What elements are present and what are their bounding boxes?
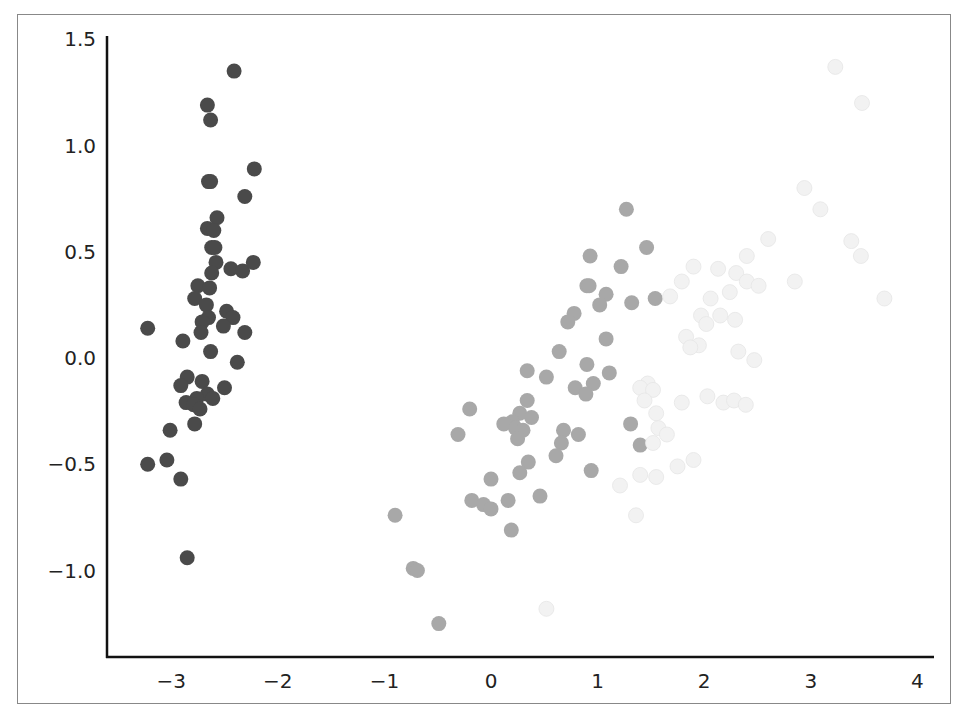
data-point	[637, 393, 652, 408]
x-axis-ticks: −3−2−101234	[156, 669, 923, 693]
y-tick-label: 1.0	[64, 134, 96, 158]
data-point	[578, 387, 593, 402]
data-point	[639, 240, 654, 255]
data-point	[431, 616, 446, 631]
data-point	[140, 457, 155, 472]
data-point	[173, 378, 188, 393]
data-point	[674, 274, 689, 289]
data-point	[504, 523, 519, 538]
data-point	[738, 397, 753, 412]
data-point	[159, 453, 174, 468]
data-point	[613, 478, 628, 493]
data-point	[204, 266, 219, 281]
data-point	[410, 563, 425, 578]
data-point	[484, 501, 499, 516]
data-point	[205, 391, 220, 406]
data-point	[787, 274, 802, 289]
data-point	[619, 202, 634, 217]
data-point	[539, 601, 554, 616]
data-point	[731, 344, 746, 359]
data-point	[649, 406, 664, 421]
data-point	[203, 344, 218, 359]
data-point	[584, 463, 599, 478]
x-tick-label: 3	[804, 669, 817, 693]
data-point	[579, 357, 594, 372]
data-point	[227, 64, 242, 79]
data-point	[549, 448, 564, 463]
data-point	[686, 259, 701, 274]
data-point	[797, 181, 812, 196]
scatter-plot: −3−2−101234 1.51.00.50.0−0.5−1.0	[0, 0, 962, 715]
data-point	[510, 431, 525, 446]
x-tick-label: 2	[698, 669, 711, 693]
data-point	[539, 370, 554, 385]
y-tick-label: 0.5	[64, 240, 96, 264]
data-point	[711, 261, 726, 276]
data-point	[230, 355, 245, 370]
data-point	[501, 493, 516, 508]
data-point	[203, 113, 218, 128]
data-point	[855, 96, 870, 111]
data-point	[247, 161, 262, 176]
data-point	[583, 249, 598, 264]
data-point	[451, 427, 466, 442]
data-point	[683, 340, 698, 355]
data-point	[388, 508, 403, 523]
data-point	[237, 189, 252, 204]
data-point	[699, 317, 714, 332]
data-point	[520, 363, 535, 378]
data-point	[180, 550, 195, 565]
y-tick-label: 1.5	[64, 27, 96, 51]
y-tick-label: 0.0	[64, 346, 96, 370]
data-point	[484, 472, 499, 487]
data-point	[751, 278, 766, 293]
data-point	[602, 365, 617, 380]
data-point	[728, 312, 743, 327]
data-point	[173, 472, 188, 487]
data-point	[844, 234, 859, 249]
x-tick-label: 4	[911, 669, 924, 693]
data-point	[700, 389, 715, 404]
x-tick-label: −1	[370, 669, 399, 693]
data-point	[237, 325, 252, 340]
y-tick-label: −0.5	[47, 452, 96, 476]
data-point	[571, 427, 586, 442]
data-point	[217, 380, 232, 395]
data-point	[163, 423, 178, 438]
data-point	[703, 291, 718, 306]
series-cluster-dark	[140, 64, 262, 566]
data-point	[560, 314, 575, 329]
data-point	[246, 255, 261, 270]
data-point	[739, 249, 754, 264]
series-cluster-medium	[388, 202, 663, 631]
x-tick-label: −3	[156, 669, 185, 693]
data-point	[853, 249, 868, 264]
x-tick-label: 1	[591, 669, 604, 693]
data-point	[199, 297, 214, 312]
data-point	[552, 344, 567, 359]
data-point	[520, 393, 535, 408]
data-point	[202, 280, 217, 295]
data-point	[629, 508, 644, 523]
data-point	[512, 465, 527, 480]
data-point	[659, 427, 674, 442]
data-point	[187, 416, 202, 431]
series-cluster-light	[539, 59, 892, 616]
data-point	[623, 416, 638, 431]
data-point	[614, 259, 629, 274]
data-point	[648, 291, 663, 306]
data-point	[462, 402, 477, 417]
data-point	[206, 223, 221, 238]
data-point	[592, 297, 607, 312]
data-point	[674, 395, 689, 410]
x-tick-label: 0	[485, 669, 498, 693]
data-point	[747, 353, 762, 368]
data-point	[203, 174, 218, 189]
data-point	[877, 291, 892, 306]
data-point	[649, 470, 664, 485]
data-point	[200, 98, 215, 113]
y-tick-label: −1.0	[47, 559, 96, 583]
y-axis-ticks: 1.51.00.50.0−0.5−1.0	[47, 27, 96, 582]
data-point	[722, 285, 737, 300]
data-point	[686, 453, 701, 468]
